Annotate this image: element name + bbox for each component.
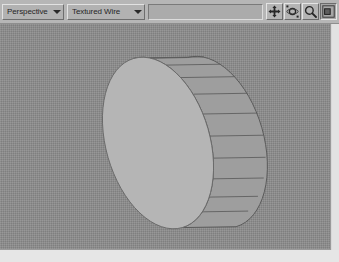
3d-viewport-panel: Perspective Textured Wire bbox=[0, 0, 339, 262]
viewport-view-dropdown-label: Perspective bbox=[7, 8, 52, 16]
viewport-shading-dropdown-label: Textured Wire bbox=[72, 8, 133, 16]
orbit-icon bbox=[286, 5, 299, 18]
page-margin-bottom bbox=[0, 250, 339, 262]
magnifier-icon bbox=[304, 5, 317, 18]
maximize-icon bbox=[322, 5, 335, 18]
maximize-viewport-button[interactable] bbox=[320, 3, 337, 20]
toolbar-empty-field[interactable] bbox=[148, 4, 263, 20]
chevron-down-icon[interactable] bbox=[133, 5, 142, 19]
pan-icon bbox=[268, 5, 281, 18]
orbit-view-button[interactable] bbox=[284, 3, 301, 20]
chevron-down-icon[interactable] bbox=[52, 5, 61, 19]
viewport-scene bbox=[0, 24, 331, 250]
page-margin-right bbox=[332, 24, 339, 250]
zoom-view-button[interactable] bbox=[302, 3, 319, 20]
viewport-shading-dropdown[interactable]: Textured Wire bbox=[67, 4, 145, 20]
perspective-viewport[interactable] bbox=[0, 24, 331, 250]
viewport-toolbar: Perspective Textured Wire bbox=[0, 0, 339, 24]
pan-view-button[interactable] bbox=[266, 3, 283, 20]
viewport-view-dropdown[interactable]: Perspective bbox=[2, 4, 64, 20]
